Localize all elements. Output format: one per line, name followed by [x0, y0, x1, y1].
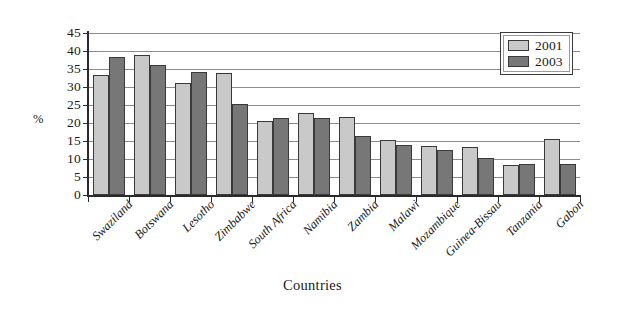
bar-2001-mozambique — [421, 146, 437, 195]
bar-2003-tanzania — [519, 164, 535, 195]
x-tick-label: Namibia — [301, 198, 340, 237]
bar-2001-tanzania — [503, 165, 519, 195]
y-tick-label: 15 — [67, 134, 81, 148]
y-tick-label: 40 — [67, 44, 81, 58]
y-tick-label: 35 — [67, 62, 81, 76]
bar-group — [293, 33, 334, 195]
bar-group — [416, 33, 457, 195]
legend: 20012003 — [500, 32, 573, 75]
bar-2001-lesotho — [175, 83, 191, 195]
bar-group — [457, 33, 498, 195]
y-tick-label: 0 — [74, 188, 81, 202]
x-axis-tick-labels: SwazilandBotswanaLesothoZimbabweSouth Af… — [88, 198, 580, 268]
bar-2003-swaziland — [109, 57, 125, 195]
y-tick-label: 30 — [67, 80, 81, 94]
bar-2001-namibia — [298, 113, 314, 195]
x-tick-label: Malawi — [386, 198, 422, 234]
bar-2001-zimbabwe — [216, 73, 232, 195]
bar-group — [375, 33, 416, 195]
bar-2001-malawi — [380, 140, 396, 195]
bar-group — [334, 33, 375, 195]
legend-swatch-2003 — [508, 56, 529, 67]
legend-item-2001: 2001 — [508, 39, 563, 53]
legend-label: 2001 — [535, 39, 563, 53]
bar-group — [211, 33, 252, 195]
bar-2003-zambia — [355, 136, 371, 195]
bar-2003-namibia — [314, 118, 330, 195]
bar-2001-swaziland — [93, 75, 109, 195]
bar-2003-zimbabwe — [232, 104, 248, 195]
bar-2001-guinea-bissau — [462, 147, 478, 195]
bar-2003-botswana — [150, 65, 166, 195]
bar-group — [170, 33, 211, 195]
x-axis-title: Countries — [0, 277, 625, 294]
y-tick-label: 45 — [67, 26, 81, 40]
x-tick-label: Tanzania — [504, 198, 545, 239]
x-tick-label: Lesotho — [180, 198, 217, 235]
bar-2001-gabon — [544, 139, 560, 195]
legend-label: 2003 — [535, 55, 563, 69]
y-axis-title: % — [33, 112, 43, 127]
y-tick-label: 20 — [67, 116, 81, 130]
bar-2003-guinea-bissau — [478, 158, 494, 195]
bar-2001-south-africa — [257, 121, 273, 195]
bar-2003-mozambique — [437, 150, 453, 195]
y-tick-label: 10 — [67, 152, 81, 166]
legend-swatch-2001 — [508, 40, 529, 51]
bar-2003-malawi — [396, 145, 412, 195]
bar-2003-south-africa — [273, 118, 289, 195]
bar-group — [252, 33, 293, 195]
legend-inner: 20012003 — [503, 35, 570, 72]
y-tick-label: 5 — [74, 170, 81, 184]
bar-2003-lesotho — [191, 72, 207, 195]
bar-group — [88, 33, 129, 195]
x-tick-label: Botswana — [132, 198, 175, 241]
x-tick-label: Gabon — [553, 198, 586, 231]
y-tick-label: 25 — [67, 98, 81, 112]
bar-2001-botswana — [134, 55, 150, 195]
bar-chart: % 051015202530354045 SwazilandBotswanaLe… — [0, 0, 625, 313]
x-tick-label: Zambia — [345, 198, 381, 234]
x-tick-label: Swaziland — [90, 198, 135, 243]
bar-group — [129, 33, 170, 195]
bar-2001-zambia — [339, 117, 355, 195]
bar-2003-gabon — [560, 164, 576, 195]
legend-item-2003: 2003 — [508, 55, 563, 69]
